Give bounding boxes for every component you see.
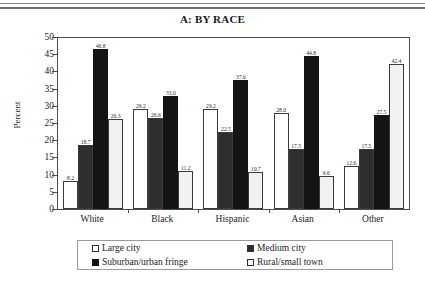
legend-item[interactable]: Rural/small town — [235, 257, 390, 267]
bar-value-label: 22.5 — [221, 126, 231, 132]
bar-slot: 10.7 — [248, 38, 263, 209]
bar-slot: 17.5 — [359, 38, 374, 209]
bar-slot: 8.2 — [63, 38, 78, 209]
bar-slot: 33.0 — [163, 38, 178, 209]
bar-value-label: 46.8 — [96, 43, 106, 49]
bar-slot: 44.8 — [304, 38, 319, 209]
y-axis-title: Percent — [12, 85, 22, 145]
bar-value-label: 17.5 — [291, 143, 301, 149]
bar-slot: 28.0 — [274, 38, 289, 209]
legend-swatch-icon — [92, 259, 99, 266]
bar[interactable]: 44.8 — [304, 56, 319, 209]
bar-group: 12.617.527.542.4 — [339, 38, 409, 209]
bar-slot: 26.6 — [148, 38, 163, 209]
bar-slot: 29.2 — [203, 38, 218, 209]
y-axis-tick-label: 35 — [32, 84, 54, 93]
y-axis-tick-label: 25 — [32, 119, 54, 128]
bar-slot: 18.7 — [78, 38, 93, 209]
legend-item[interactable]: Large city — [80, 243, 235, 253]
y-axis-tick-mark — [52, 106, 57, 107]
legend-item[interactable]: Medium city — [235, 243, 390, 253]
bar[interactable]: 12.6 — [344, 166, 359, 209]
bar-value-label: 9.6 — [323, 170, 330, 176]
y-axis-tick-labels: 50454035302520151050 — [28, 0, 54, 285]
bar-value-label: 29.2 — [136, 103, 146, 109]
bar-group: 29.222.537.610.7 — [198, 38, 268, 209]
bar[interactable]: 42.4 — [389, 64, 404, 209]
y-axis-tick-mark — [52, 89, 57, 90]
bar-value-label: 26.3 — [111, 113, 121, 119]
group-separator-tick — [128, 209, 129, 213]
bar[interactable]: 26.3 — [108, 119, 123, 209]
x-axis-tick-labels: WhiteBlackHispanicAsianOther — [57, 214, 410, 228]
bar-slot: 46.8 — [93, 38, 108, 209]
bar-slot: 27.5 — [374, 38, 389, 209]
y-axis-tick-mark — [52, 54, 57, 55]
bar-slot: 26.3 — [108, 38, 123, 209]
bar[interactable]: 26.6 — [148, 118, 163, 209]
bar-value-label: 11.2 — [181, 165, 191, 171]
y-axis-tick-mark — [52, 209, 57, 210]
y-axis-tick-mark — [52, 192, 57, 193]
bar[interactable]: 28.0 — [274, 113, 289, 209]
bar-value-label: 26.6 — [151, 112, 161, 118]
legend-label: Medium city — [257, 243, 306, 253]
y-axis-tick-mark — [52, 123, 57, 124]
y-axis-tick-label: 40 — [32, 67, 54, 76]
bar[interactable]: 27.5 — [374, 115, 389, 209]
bar[interactable]: 17.5 — [289, 149, 304, 209]
x-axis-tick-label: Black — [151, 214, 173, 224]
bar[interactable]: 8.2 — [63, 181, 78, 209]
bar[interactable]: 17.5 — [359, 149, 374, 209]
bar-slot: 29.2 — [133, 38, 148, 209]
bar-value-label: 12.6 — [346, 160, 356, 166]
y-axis-tick-label: 50 — [32, 33, 54, 42]
x-axis-tick-label: Hispanic — [216, 214, 250, 224]
legend-item[interactable]: Suburban/urban fringe — [80, 257, 235, 267]
bar[interactable]: 11.2 — [178, 171, 193, 209]
y-axis-tick-mark — [52, 175, 57, 176]
bar-value-label: 44.8 — [306, 50, 316, 56]
group-separator-tick — [269, 209, 270, 213]
bar[interactable]: 29.2 — [203, 109, 218, 209]
bar-value-label: 37.6 — [236, 74, 246, 80]
bar[interactable]: 29.2 — [133, 109, 148, 209]
bar-value-label: 33.0 — [166, 90, 176, 96]
bar-slot: 17.5 — [289, 38, 304, 209]
y-axis-tick-mark — [52, 71, 57, 72]
bar-value-label: 10.7 — [251, 166, 261, 172]
x-axis-tick-label: Other — [362, 214, 384, 224]
bar-value-label: 27.5 — [376, 109, 386, 115]
legend-swatch-icon — [247, 245, 254, 252]
y-axis-tick-label: 10 — [32, 170, 54, 179]
bar[interactable]: 22.5 — [218, 132, 233, 209]
y-axis-tick-label: 30 — [32, 101, 54, 110]
top-rule-thick — [0, 7, 425, 9]
bar-slot: 9.6 — [319, 38, 334, 209]
bar[interactable]: 10.7 — [248, 172, 263, 209]
group-separator-tick — [198, 209, 199, 213]
y-axis-tick-label: 45 — [32, 50, 54, 59]
bars-layer: 8.218.746.826.329.226.633.011.229.222.53… — [58, 38, 409, 209]
bar-value-label: 28.0 — [276, 107, 286, 113]
bar-slot: 12.6 — [344, 38, 359, 209]
bar-slot: 11.2 — [178, 38, 193, 209]
legend-swatch-icon — [247, 259, 254, 266]
bar[interactable]: 33.0 — [163, 96, 178, 209]
y-axis-tick-label: 15 — [32, 153, 54, 162]
y-axis-tick-mark — [52, 157, 57, 158]
bar[interactable]: 9.6 — [319, 176, 334, 209]
legend-swatch-icon — [92, 245, 99, 252]
bar-group: 8.218.746.826.3 — [58, 38, 128, 209]
bar[interactable]: 18.7 — [78, 145, 93, 209]
legend-label: Large city — [102, 243, 141, 253]
bar-value-label: 42.4 — [391, 58, 401, 64]
bar-group: 28.017.544.89.6 — [269, 38, 339, 209]
y-axis-tick-label: 5 — [32, 187, 54, 196]
top-rule-thin — [0, 3, 425, 4]
bar[interactable]: 37.6 — [233, 80, 248, 209]
bar[interactable]: 46.8 — [93, 49, 108, 209]
y-axis-tick-label: 20 — [32, 136, 54, 145]
y-axis-tick-mark — [52, 140, 57, 141]
bar-value-label: 8.2 — [67, 175, 74, 181]
